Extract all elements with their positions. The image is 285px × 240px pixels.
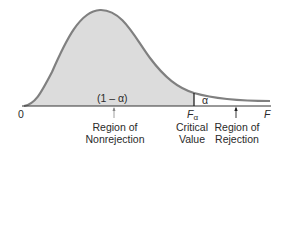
rejection-arrowhead — [234, 107, 237, 112]
rejection-line2: Rejection — [212, 133, 262, 145]
axis-end-label: F — [264, 108, 270, 120]
critical-value-line2: Value — [171, 133, 213, 145]
rejection-line1: Region of — [212, 121, 262, 133]
nonrejection-line1: Region of — [84, 121, 146, 133]
rejection-region-label: Region of Rejection — [212, 121, 262, 145]
nonrejection-line2: Nonrejection — [84, 133, 146, 145]
origin-label: 0 — [18, 108, 24, 120]
nonrejection-arrowhead — [113, 107, 116, 111]
nonrejection-region-label: Region of Nonrejection — [84, 121, 146, 145]
critical-value-line1: Critical — [171, 121, 213, 133]
nonrejection-area-label: (1 – α) — [97, 92, 128, 104]
rejection-area-label: α — [202, 94, 208, 106]
critical-value-label: Critical Value — [171, 121, 213, 145]
